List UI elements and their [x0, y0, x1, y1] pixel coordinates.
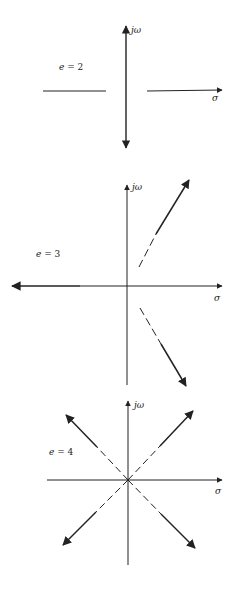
jw-label: jω [130, 182, 143, 192]
locus-branch-upper-dashed [139, 234, 156, 267]
panel-e2: jω σ e = 2 [43, 25, 222, 148]
jw-label: jω [132, 400, 145, 410]
locus-branch-ur-dashed [128, 446, 160, 480]
sigma-label: σ [212, 93, 219, 103]
jw-label: jω [129, 25, 142, 35]
sigma-label: σ [214, 293, 221, 303]
root-locus-figure: jω σ e = 2 jω σ e = 3 jω σ [0, 0, 238, 591]
locus-branch-lower-dashed [140, 308, 161, 344]
locus-branch-ur [160, 411, 193, 446]
locus-branch-ll [63, 512, 96, 545]
locus-branch-lr [161, 514, 195, 548]
panel-label-e4: e = 4 [49, 447, 74, 457]
locus-branch-lower [161, 344, 186, 386]
sigma-label: σ [215, 486, 222, 496]
locus-branch-ll-dashed [96, 480, 128, 512]
panel-label-e2: e = 2 [59, 62, 83, 72]
real-axis-right-segment [147, 90, 222, 91]
locus-branch-ul [66, 415, 97, 447]
locus-branch-lr-dashed [128, 480, 161, 514]
panel-e4: jω σ e = 4 [47, 400, 222, 565]
locus-branch-upper [156, 180, 189, 234]
panel-e3: jω σ e = 3 [12, 180, 222, 386]
panel-label-e3: e = 3 [36, 249, 61, 259]
locus-branch-ul-dashed [97, 447, 128, 480]
